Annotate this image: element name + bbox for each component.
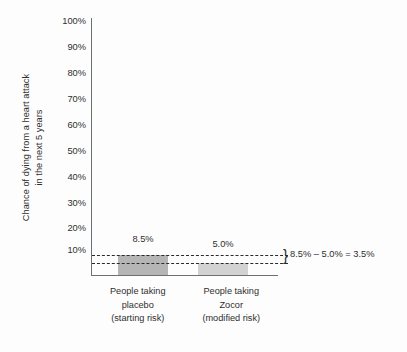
x-label-zocor: People taking Zocor (modified risk): [185, 285, 279, 326]
x-label-placebo: People taking placebo (starting risk): [91, 285, 185, 326]
x-label-placebo-line-1: People taking: [91, 285, 185, 299]
x-label-placebo-line-2: placebo: [91, 299, 185, 313]
reference-line-8-5: [92, 255, 288, 256]
y-axis-title-line-2: in the next 5 years: [32, 48, 45, 248]
y-axis-title: Chance of dying from a heart attack in t…: [20, 48, 45, 248]
y-tick-60: 60%: [50, 120, 86, 130]
y-axis-line: [91, 18, 92, 276]
y-tick-50: 50%: [50, 146, 86, 156]
y-tick-10: 10%: [50, 245, 86, 255]
y-tick-70: 70%: [50, 94, 86, 104]
bar-value-zocor: 5.0%: [193, 239, 253, 249]
x-label-zocor-line-2: Zocor: [185, 299, 279, 313]
reference-line-5-0: [92, 263, 288, 264]
plot-area: 8.5% 5.0%: [91, 18, 278, 276]
bar-value-placebo: 8.5%: [113, 234, 173, 244]
difference-annotation-text: 8.5% – 5.0% = 3.5%: [290, 249, 375, 260]
x-axis-category-labels: People taking placebo (starting risk) Pe…: [91, 285, 278, 326]
bar-placebo: [118, 255, 168, 275]
brace-icon: }: [283, 248, 288, 261]
y-tick-90: 90%: [50, 42, 86, 52]
y-axis-title-line-1: Chance of dying from a heart attack: [20, 48, 33, 248]
y-tick-80: 80%: [50, 68, 86, 78]
chart-figure: Chance of dying from a heart attack in t…: [0, 0, 407, 352]
difference-annotation: } 8.5% – 5.0% = 3.5%: [283, 249, 375, 260]
y-tick-20: 20%: [50, 223, 86, 233]
x-label-zocor-line-1: People taking: [185, 285, 279, 299]
x-label-placebo-line-3: (starting risk): [91, 312, 185, 326]
y-tick-100: 100%: [50, 16, 86, 26]
y-tick-30: 30%: [50, 198, 86, 208]
y-tick-40: 40%: [50, 172, 86, 182]
y-axis-tick-labels: 100% 90% 80% 70% 60% 50% 40% 30% 20% 10%: [50, 0, 86, 352]
x-label-zocor-line-3: (modified risk): [185, 312, 279, 326]
bar-zocor: [198, 263, 248, 275]
